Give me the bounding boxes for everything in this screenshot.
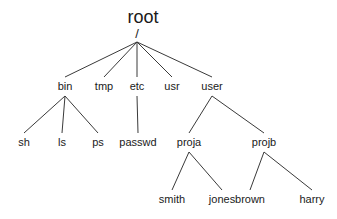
node-usr: usr: [164, 80, 180, 92]
node-jones: jones: [208, 193, 236, 205]
node-root: root: [127, 7, 158, 27]
node-sh: sh: [18, 136, 30, 148]
edge-bin-sh: [24, 96, 65, 133]
node-ps: ps: [92, 136, 104, 148]
edge-etc-passwd: [137, 96, 138, 133]
node-passwd: passwd: [119, 136, 156, 148]
edge-proja-smith: [172, 152, 189, 190]
node-harry: harry: [299, 193, 325, 205]
edge-root-user: [137, 42, 212, 77]
edge-root-usr: [137, 42, 172, 77]
node-smith: smith: [159, 193, 185, 205]
node-tmp: tmp: [95, 80, 113, 92]
node-brown: brown: [235, 193, 265, 205]
node-bin: bin: [58, 80, 73, 92]
edge-user-proja: [189, 96, 212, 133]
edge-projb-harry: [264, 152, 312, 190]
edge-user-projb: [212, 96, 264, 133]
edge-bin-ls: [62, 96, 65, 133]
node-etc: etc: [130, 80, 145, 92]
edge-projb-brown: [250, 152, 264, 190]
node-ls: ls: [58, 136, 66, 148]
edge-bin-ps: [65, 96, 98, 133]
tree-edges: [24, 42, 312, 190]
edge-root-bin: [65, 42, 137, 77]
node-projb: projb: [252, 136, 276, 148]
node-user: user: [201, 80, 223, 92]
edge-proja-jones: [189, 152, 222, 190]
node-proja: proja: [177, 136, 202, 148]
root-separator-slash: /: [135, 26, 139, 41]
file-system-tree: root / bintmpetcusrusershlspspasswdproja…: [0, 0, 337, 219]
edge-root-tmp: [104, 42, 137, 77]
